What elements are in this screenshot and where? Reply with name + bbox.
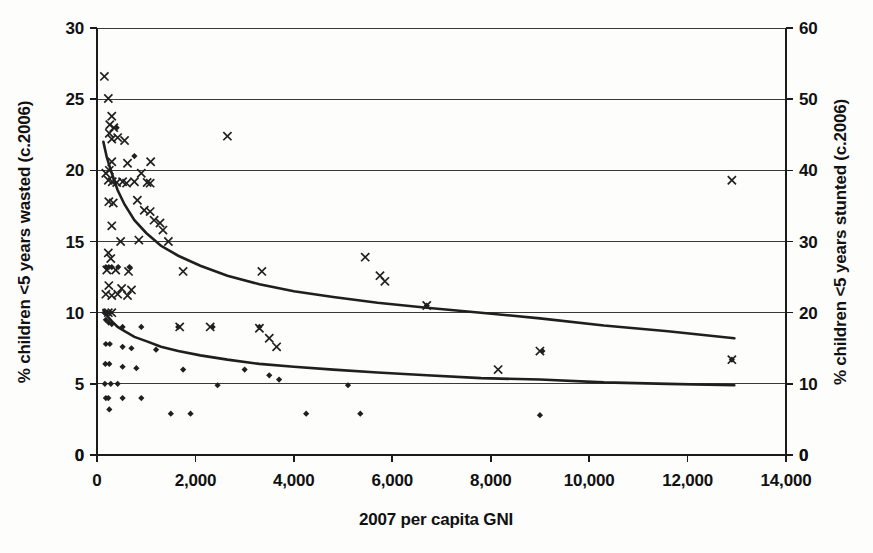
y-axis-right-tick-label: 60 [799, 19, 818, 38]
y-axis-left-tick-label: 5 [75, 375, 84, 394]
y-axis-left-tick-label: 25 [65, 90, 84, 109]
x-axis-tick-label: 8,000 [470, 471, 512, 490]
x-axis-tick-label: 2,000 [175, 471, 217, 490]
x-axis-tick-label: 14,000 [761, 471, 812, 490]
y-axis-left-tick-label: 20 [65, 161, 84, 180]
y-axis-right-tick-label: 30 [799, 233, 818, 252]
x-axis-tick-label: 10,000 [564, 471, 615, 490]
y-axis-left-label: % children <5 years wasted (c.2006) [15, 101, 34, 384]
x-axis-tick-label: 4,000 [273, 471, 315, 490]
y-axis-left-tick-label: 15 [65, 233, 84, 252]
x-axis-corner-label-right: 0 [799, 446, 808, 465]
y-axis-right-label: % children <5 years stunted (c.2006) [831, 99, 850, 385]
x-axis-label: 2007 per capita GNI [359, 510, 513, 529]
scatter-chart: 02,0004,0006,0008,00010,00012,00014,000 … [0, 0, 873, 553]
y-axis-right-tick-label: 50 [799, 90, 818, 109]
x-axis-corner-label-left: 0 [75, 446, 84, 465]
y-axis-right-tick-label: 20 [799, 304, 818, 323]
y-axis-right-tick-label: 40 [799, 161, 818, 180]
chart-figure: 02,0004,0006,0008,00010,00012,00014,000 … [0, 0, 873, 553]
y-axis-right-tick-label: 10 [799, 375, 818, 394]
y-axis-left-tick-label: 30 [65, 19, 84, 38]
x-axis-tick-label: 6,000 [372, 471, 414, 490]
x-axis-tick-label: 0 [92, 471, 101, 490]
y-axis-left-tick-label: 10 [65, 304, 84, 323]
chart-background [0, 0, 873, 553]
x-axis-tick-label: 12,000 [662, 471, 713, 490]
